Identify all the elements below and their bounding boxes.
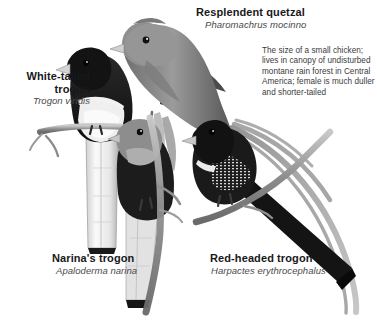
trogon-plate: Resplendent quetzal Pharomachrus mocinno… [0, 0, 377, 322]
species-label-resplendent-quetzal: Resplendent quetzal Pharomachrus mocinno [196, 6, 306, 30]
common-name-resplendent-quetzal: Resplendent quetzal [196, 6, 306, 19]
common-name-narinas-trogon: Narina's trogon [52, 252, 137, 265]
scientific-name-resplendent-quetzal: Pharomachrus mocinno [205, 19, 306, 31]
scientific-name-narinas-trogon: Apaloderma narina [56, 265, 137, 277]
species-label-narinas-trogon: Narina's trogon Apaloderma narina [52, 252, 137, 276]
species-label-red-headed-trogon: Red-headed trogon Harpactes erythrocepha… [210, 252, 326, 276]
species-label-white-tailed-trogon: White-tailed trogon Trogon viridis [4, 70, 90, 107]
scientific-name-white-tailed-trogon: Trogon viridis [4, 95, 90, 107]
quetzal-description-text: The size of a small chicken; lives in ca… [262, 46, 376, 98]
common-name-white-tailed-trogon: White-tailed trogon [4, 70, 90, 95]
common-name-red-headed-trogon: Red-headed trogon [210, 252, 326, 265]
scientific-name-red-headed-trogon: Harpactes erythrocephalus [211, 265, 326, 277]
